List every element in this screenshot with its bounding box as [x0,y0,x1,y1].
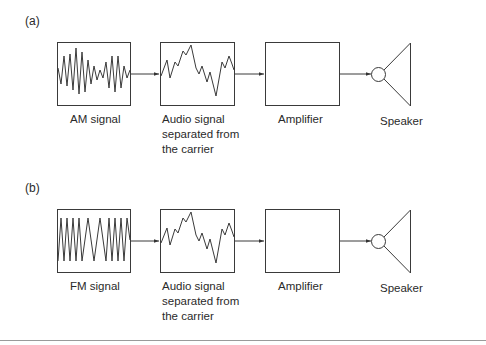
am-signal-label: AM signal [70,112,121,127]
fm-waveform [58,218,130,261]
audio-waveform [161,212,234,263]
panel-a [58,43,411,107]
fm-signal-label: FM signal [70,279,120,294]
audio-waveform [161,45,234,96]
bottom-divider [0,340,486,341]
panel-label-a: (a) [25,14,40,28]
panel-b [58,210,411,274]
audio-signal-label: Audio signal separated from the carrier [162,112,239,157]
speaker-icon [372,210,411,273]
amplifier-label: Amplifier [278,112,323,127]
am-waveform [58,48,130,94]
amplifier-box [266,210,340,273]
audio-signal-label: Audio signal separated from the carrier [162,279,239,324]
speaker-label: Speaker [380,114,423,129]
amplifier-box [266,43,340,106]
speaker-label: Speaker [380,281,423,296]
panel-label-b: (b) [25,181,40,195]
speaker-icon [372,43,411,106]
amplifier-label: Amplifier [278,279,323,294]
